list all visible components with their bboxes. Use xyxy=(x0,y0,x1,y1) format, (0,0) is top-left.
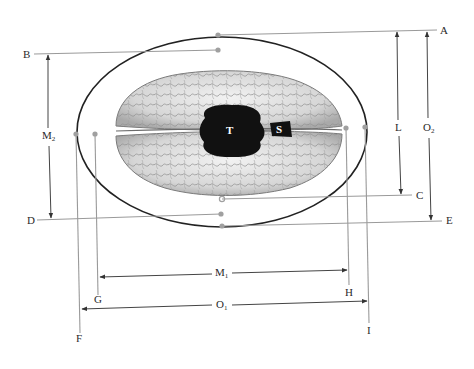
point-label-g: G xyxy=(94,294,102,305)
line-h xyxy=(346,128,349,285)
m1-arrow-left xyxy=(100,274,212,277)
l-arrow-top xyxy=(397,32,398,120)
point-label-e: E xyxy=(446,215,453,226)
o2-arrow-bottom xyxy=(429,138,431,220)
marker-s-label: S xyxy=(276,124,282,135)
line-i xyxy=(365,127,369,323)
line-e xyxy=(222,221,442,226)
point-label-b: B xyxy=(23,49,30,60)
line-c xyxy=(222,195,412,199)
o1-arrow-right xyxy=(232,301,367,305)
measure-label-o2: O2 xyxy=(423,122,434,135)
measure-label-m1: M1 xyxy=(215,267,228,280)
measure-label-o1: O1 xyxy=(216,299,227,312)
point-label-d: D xyxy=(27,215,35,226)
point-label-f: F xyxy=(76,333,82,344)
line-a xyxy=(218,30,437,35)
m2-arrow-bottom xyxy=(49,146,51,218)
line-g xyxy=(95,134,98,295)
m1-arrow-right xyxy=(232,270,347,273)
point-label-i: I xyxy=(367,325,371,336)
marker-t-label: T xyxy=(226,125,233,136)
diagram-canvas xyxy=(0,0,474,369)
measure-label-m2: M2 xyxy=(42,130,55,143)
measure-label-l: L xyxy=(395,122,402,133)
l-arrow-bottom xyxy=(399,136,401,194)
line-d xyxy=(37,214,221,220)
line-f xyxy=(76,134,80,333)
point-label-a: A xyxy=(440,25,448,36)
point-label-h: H xyxy=(345,287,353,298)
point-label-c: C xyxy=(416,190,423,201)
o1-arrow-left xyxy=(82,305,212,309)
o2-arrow-top xyxy=(427,32,428,118)
line-b xyxy=(34,50,218,54)
brain-measurement-diagram: T S A B C D E F G H I M2 L O2 M1 O1 xyxy=(0,0,474,369)
